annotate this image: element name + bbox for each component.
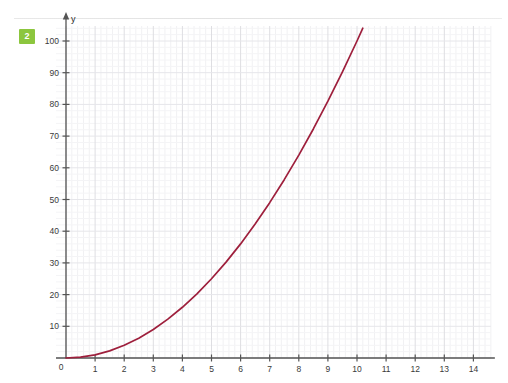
svg-text:11: 11 — [382, 364, 391, 374]
svg-text:6: 6 — [238, 364, 243, 374]
svg-text:7: 7 — [267, 364, 272, 374]
svg-text:30: 30 — [50, 258, 60, 268]
svg-text:2: 2 — [122, 364, 127, 374]
svg-text:60: 60 — [50, 163, 60, 173]
graph-page: 2 01234567891011121314102030405060708090… — [0, 0, 508, 383]
svg-text:10: 10 — [50, 321, 60, 331]
svg-text:12: 12 — [410, 364, 420, 374]
plot-area: 0123456789101112131410203040506070809010… — [0, 0, 508, 383]
svg-text:8: 8 — [296, 364, 301, 374]
svg-text:20: 20 — [50, 290, 60, 300]
svg-text:3: 3 — [151, 364, 156, 374]
svg-text:10: 10 — [352, 364, 362, 374]
axis-tick-labels: 0123456789101112131410203040506070809010… — [45, 36, 479, 374]
svg-text:90: 90 — [50, 68, 60, 78]
major-gridlines — [56, 26, 491, 358]
minor-gridlines — [56, 26, 491, 358]
svg-text:5: 5 — [209, 364, 214, 374]
svg-text:70: 70 — [50, 131, 60, 141]
svg-text:9: 9 — [326, 364, 331, 374]
svg-text:40: 40 — [50, 226, 60, 236]
svg-text:0: 0 — [59, 362, 64, 372]
svg-text:100: 100 — [45, 36, 59, 46]
axis-name-labels: y — [71, 14, 76, 24]
svg-text:50: 50 — [50, 195, 60, 205]
svg-text:80: 80 — [50, 99, 60, 109]
svg-text:14: 14 — [469, 364, 479, 374]
svg-text:y: y — [71, 14, 76, 24]
svg-text:1: 1 — [93, 364, 98, 374]
svg-text:4: 4 — [180, 364, 185, 374]
svg-text:13: 13 — [440, 364, 450, 374]
coordinate-graph[interactable]: 0123456789101112131410203040506070809010… — [0, 0, 508, 383]
